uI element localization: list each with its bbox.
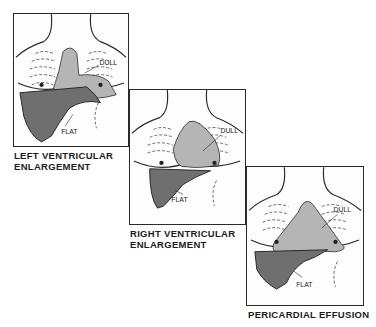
flat-label: FLAT: [171, 196, 188, 203]
dull-label: DULL: [334, 206, 352, 213]
flat-region: [20, 87, 101, 142]
flat-region: [255, 250, 328, 289]
dull-region: [173, 121, 220, 167]
torso-illustration: DULL FLAT: [130, 90, 245, 224]
panel-right-ventricular-enlargement: DULL FLAT: [129, 89, 246, 225]
torso-illustration: DULL FLAT: [247, 167, 363, 305]
torso-illustration: DULL FLAT: [14, 14, 128, 146]
flat-label: FLAT: [61, 128, 78, 135]
dull-label: DULL: [220, 127, 238, 134]
caption-pericardial-effusion: PERICARDIAL EFFUSION: [248, 309, 369, 320]
caption-left-ventricular-enlargement: LEFT VENTRICULAR ENLARGEMENT: [14, 150, 113, 172]
panel-left-ventricular-enlargement: DULL FLAT: [13, 13, 129, 147]
flat-label: FLAT: [296, 281, 313, 288]
dull-label: DULL: [99, 59, 117, 66]
panel-pericardial-effusion: DULL FLAT: [246, 166, 364, 306]
caption-right-ventricular-enlargement: RIGHT VENTRICULAR ENLARGEMENT: [130, 228, 235, 250]
